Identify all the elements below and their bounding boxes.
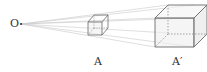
label-o: O: [10, 18, 19, 29]
cube-a: [88, 15, 108, 35]
label-a: A: [94, 56, 102, 67]
cube-a-prime: [155, 5, 207, 47]
homothety-diagram: O A A′: [0, 0, 207, 72]
label-a-prime: A′: [172, 56, 182, 67]
center-point-o: [20, 23, 22, 25]
